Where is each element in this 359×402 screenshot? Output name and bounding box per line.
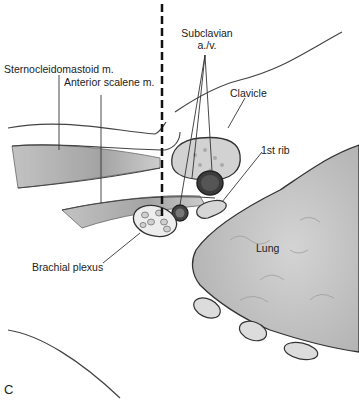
label-anterior-scalene: Anterior scalene m. bbox=[64, 77, 154, 89]
lower-contour bbox=[8, 330, 120, 398]
sternocleidomastoid-muscle bbox=[12, 145, 160, 188]
skin-contour-left bbox=[8, 122, 166, 134]
label-clavicle: Clavicle bbox=[230, 88, 267, 100]
anatomy-illustration bbox=[0, 0, 359, 402]
label-subclavian: Subclavian a./v. bbox=[178, 28, 236, 51]
label-subclavian-line2: a./v. bbox=[178, 40, 236, 52]
label-sternocleidomastoid: Sternocleidomastoid m. bbox=[4, 64, 114, 76]
label-lung: Lung bbox=[256, 243, 279, 255]
label-first-rib: 1st rib bbox=[261, 145, 290, 157]
label-subclavian-line1: Subclavian bbox=[178, 28, 236, 40]
panel-label: C bbox=[4, 383, 13, 397]
label-brachial-plexus: Brachial plexus bbox=[32, 262, 103, 274]
